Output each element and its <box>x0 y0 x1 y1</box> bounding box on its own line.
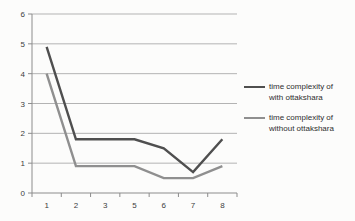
legend-label: time complexity of with ottakshara <box>269 81 345 103</box>
legend-label: time complexity of without ottakshara <box>269 112 345 134</box>
y-tick-label: 1 <box>21 159 26 168</box>
y-tick-label: 6 <box>21 10 26 19</box>
legend-entry-with-ottakshara: time complexity of with ottakshara <box>244 81 348 103</box>
x-tick-label: 2 <box>74 201 79 210</box>
legend-line-swatch <box>244 86 265 88</box>
x-tick-label: 3 <box>103 201 108 210</box>
x-tick-label: 7 <box>191 201 196 210</box>
y-tick-label: 2 <box>21 129 26 138</box>
y-tick-label: 5 <box>21 40 26 49</box>
x-tick-label: 1 <box>44 201 49 210</box>
series-line-1 <box>47 74 223 178</box>
y-tick-label: 3 <box>21 100 26 109</box>
legend: time complexity of with ottakshara time … <box>244 81 348 134</box>
y-tick-label: 0 <box>21 189 26 198</box>
x-tick-label: 6 <box>162 201 167 210</box>
legend-entry-without-ottakshara: time complexity of without ottakshara <box>244 112 348 134</box>
line-chart: 01234561235678 time complexity of with o… <box>0 0 355 221</box>
legend-line-swatch <box>244 117 265 119</box>
x-tick-label: 5 <box>132 201 137 210</box>
y-tick-label: 4 <box>21 70 26 79</box>
x-tick-label: 8 <box>220 201 225 210</box>
